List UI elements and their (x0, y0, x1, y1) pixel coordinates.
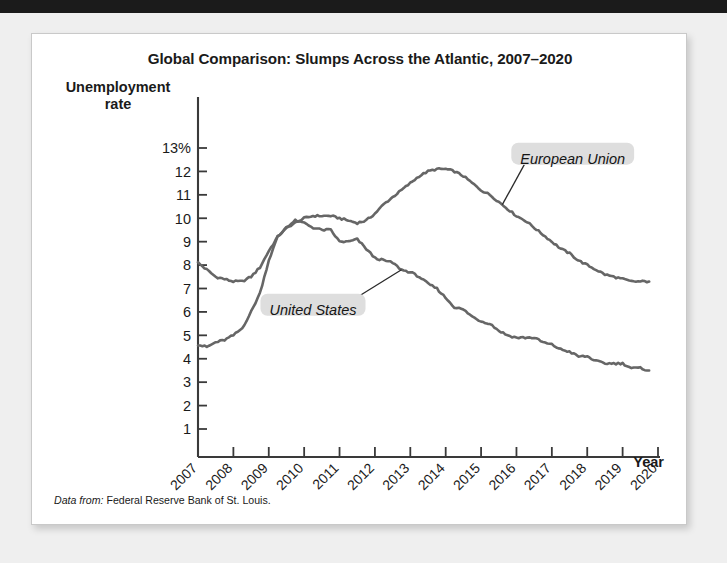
x-tick-label: 2007 (167, 460, 200, 493)
x-tick-label: 2009 (238, 460, 271, 493)
y-tick-label: 1 (183, 421, 191, 437)
page-root: Global Comparison: Slumps Across the Atl… (0, 0, 727, 563)
x-tick-label: 2016 (485, 460, 518, 493)
series-label-text: United States (269, 302, 356, 318)
y-axis-ticks: 13%121110987654321 (162, 140, 207, 437)
source-note-lead: Data from: (54, 494, 103, 506)
y-tick-label: 11 (176, 187, 191, 203)
page-top-bar (0, 0, 727, 13)
y-tick-label: 2 (183, 398, 191, 414)
y-tick-label: 12 (175, 164, 191, 180)
callout-leader-line (502, 165, 524, 205)
x-tick-label: 2015 (450, 460, 483, 493)
x-tick-label: 2019 (591, 460, 624, 493)
y-tick-label: 5 (183, 328, 191, 344)
data-series (198, 168, 649, 370)
y-tick-label: 10 (175, 211, 191, 227)
x-tick-label: 2010 (273, 460, 306, 493)
x-tick-label: 2017 (521, 460, 554, 493)
source-note: Data from: Federal Reserve Bank of St. L… (54, 494, 271, 506)
y-tick-label: 3 (183, 374, 191, 390)
x-axis-title: Year (633, 454, 664, 470)
x-tick-label: 2011 (309, 460, 342, 493)
y-tick-label: 7 (183, 281, 191, 297)
x-tick-label: 2008 (202, 460, 235, 493)
y-tick-label: 4 (183, 351, 191, 367)
x-tick-label: 2013 (379, 460, 412, 493)
series-line-european-union (198, 168, 649, 282)
y-tick-label: 8 (183, 257, 191, 273)
source-note-text: Federal Reserve Bank of St. Louis. (106, 494, 270, 506)
figure-card: Global Comparison: Slumps Across the Atl… (31, 33, 687, 525)
y-tick-label: 6 (183, 304, 191, 320)
series-label-text: European Union (520, 151, 625, 167)
x-axis-ticks: 2007200820092010201120122013201420152016… (167, 447, 660, 493)
y-tick-label: 13% (162, 140, 191, 156)
chart-plot: 13%121110987654321 200720082009201020112… (32, 34, 688, 526)
x-tick-label: 2012 (344, 460, 377, 493)
x-tick-label: 2018 (556, 460, 589, 493)
y-tick-label: 9 (183, 234, 191, 250)
x-tick-label: 2014 (414, 460, 447, 493)
callout-leader-line (360, 270, 402, 296)
